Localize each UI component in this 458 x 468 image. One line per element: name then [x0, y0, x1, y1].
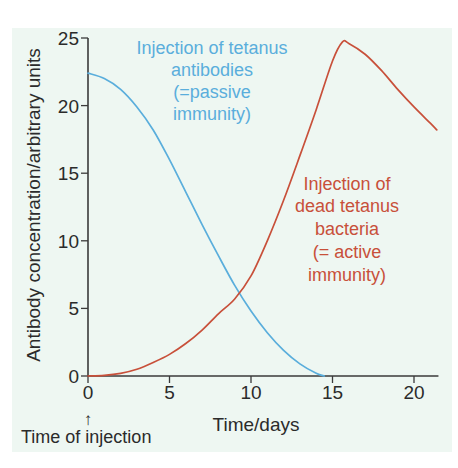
x-tick-label: 10: [240, 382, 261, 403]
x-tick-label: 15: [322, 382, 343, 403]
y-tick-label: 20: [58, 96, 79, 117]
x-tick-label: 20: [403, 382, 424, 403]
y-axis-title: Antibody concentration/arbitrary units: [23, 48, 44, 362]
annot-line: immunity): [173, 104, 251, 124]
line-chart: 051015202505101520 Antibody concentratio…: [0, 0, 458, 468]
annot-line: bacteria: [315, 219, 380, 239]
annot-line: (=passive: [173, 82, 251, 102]
x-tick-label: 5: [164, 382, 175, 403]
y-tick-label: 10: [58, 231, 79, 252]
y-tick-label: 5: [68, 298, 79, 319]
time-of-injection-label: Time of injection: [21, 427, 151, 447]
annot-line: Injection of tetanus: [136, 38, 287, 58]
y-tick-label: 25: [58, 28, 79, 49]
active-immunity-annotation: Injection of dead tetanus bacteria (= ac…: [295, 174, 399, 285]
passive-immunity-annotation: Injection of tetanus antibodies (=passiv…: [136, 38, 287, 124]
annot-line: (= active: [313, 242, 382, 262]
x-axis-title: Time/days: [213, 414, 300, 435]
annot-line: Injection of: [303, 174, 391, 194]
annot-line: dead tetanus: [295, 196, 399, 216]
x-tick-label: 0: [83, 382, 94, 403]
annot-line: immunity): [308, 265, 386, 285]
y-tick-label: 15: [58, 163, 79, 184]
y-tick-label: 0: [68, 366, 79, 387]
annot-line: antibodies: [171, 60, 253, 80]
